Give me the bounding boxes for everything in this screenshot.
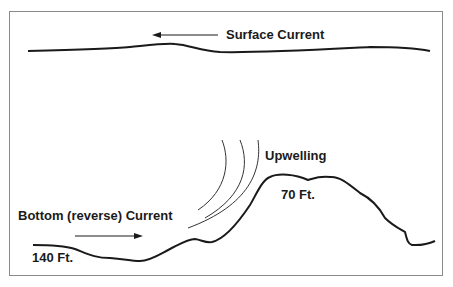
diagram-drawing — [0, 0, 453, 287]
bottom-current-label: Bottom (reverse) Current — [18, 208, 173, 223]
upwelling-arcs-icon — [188, 140, 259, 228]
depth-140-label: 140 Ft. — [32, 250, 73, 265]
surface-water-line — [28, 44, 430, 52]
depth-70-label: 70 Ft. — [281, 187, 315, 202]
upwelling-label: Upwelling — [265, 148, 326, 163]
surface-current-label: Surface Current — [226, 27, 324, 42]
